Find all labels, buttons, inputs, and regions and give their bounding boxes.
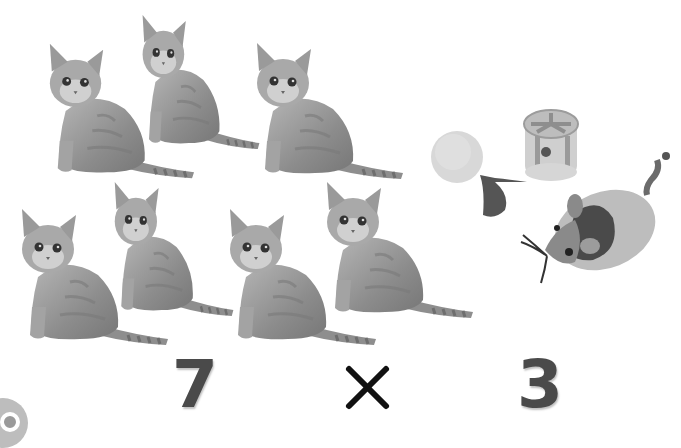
corner-badge-icon xyxy=(0,398,28,448)
kitten-count-number: 7 xyxy=(172,352,218,418)
toy-count-number: 3 xyxy=(517,352,563,418)
kitten-5 xyxy=(105,180,235,318)
kitten-2 xyxy=(133,13,261,151)
kitten-3 xyxy=(245,40,405,182)
pom-pom-ball-icon xyxy=(431,131,527,217)
cat-toys-group xyxy=(425,100,681,290)
multiply-sign: × xyxy=(344,364,391,411)
rattle-wheel-icon xyxy=(524,110,578,181)
